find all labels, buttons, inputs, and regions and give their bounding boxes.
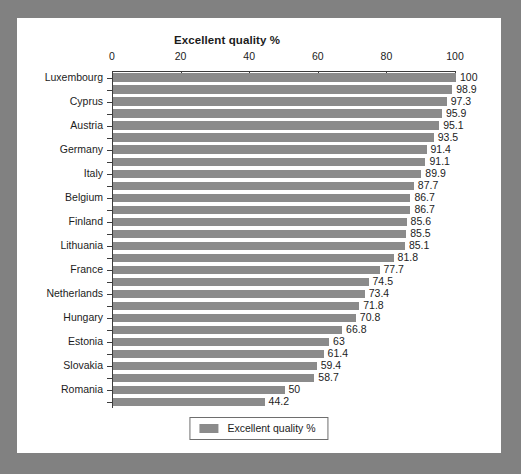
bar[interactable] <box>113 290 365 299</box>
category-label: Italy <box>84 167 103 180</box>
bar-row[interactable]: Slovakia59.4 <box>17 360 501 372</box>
bar-row[interactable]: Cyprus97.3 <box>17 96 501 108</box>
bar-row[interactable]: Hungary70.8 <box>17 312 501 324</box>
y-tick <box>107 258 112 259</box>
bar[interactable] <box>113 194 410 203</box>
x-tick-label-20: 20 <box>175 50 187 62</box>
bar[interactable] <box>113 109 442 118</box>
bar[interactable] <box>113 121 439 130</box>
y-tick <box>107 90 112 91</box>
y-tick <box>107 378 112 379</box>
y-tick <box>107 186 112 187</box>
bar[interactable] <box>113 314 356 323</box>
category-label: Belgium <box>65 191 103 204</box>
bar-row[interactable]: Netherlands73.4 <box>17 288 501 300</box>
bar[interactable] <box>113 278 369 287</box>
bar[interactable] <box>113 85 452 94</box>
category-label: France <box>70 263 103 276</box>
chart-panel: Excellent quality % 020406080100 Luxembo… <box>17 18 501 453</box>
bar[interactable] <box>113 242 405 251</box>
x-tick-label-60: 60 <box>312 50 324 62</box>
y-tick <box>107 330 112 331</box>
y-tick <box>107 282 112 283</box>
category-label: Germany <box>60 143 103 156</box>
bar-row[interactable]: 44.2 <box>17 396 501 408</box>
bar[interactable] <box>113 97 447 106</box>
y-tick <box>107 402 112 403</box>
category-label: Luxembourg <box>45 71 103 84</box>
bar[interactable] <box>113 145 427 154</box>
y-tick <box>107 366 112 367</box>
bar[interactable] <box>113 350 324 359</box>
bar[interactable] <box>113 158 425 167</box>
bar[interactable] <box>113 398 265 407</box>
y-tick <box>107 246 112 247</box>
chart-title: Excellent quality % <box>17 34 437 46</box>
category-label: Austria <box>70 119 103 132</box>
bar-value-label: 66.8 <box>346 323 366 336</box>
legend-label: Excellent quality % <box>227 422 315 434</box>
bar-value-label: 50 <box>289 383 301 396</box>
y-tick <box>107 210 112 211</box>
y-tick <box>107 342 112 343</box>
bar[interactable] <box>113 73 456 82</box>
bar[interactable] <box>113 206 410 215</box>
legend-swatch-icon <box>199 424 218 433</box>
x-tick-label-100: 100 <box>446 50 464 62</box>
bar[interactable] <box>113 230 406 239</box>
bar[interactable] <box>113 374 314 383</box>
y-tick <box>107 390 112 391</box>
category-label: Cyprus <box>70 95 103 108</box>
bar[interactable] <box>113 326 342 335</box>
category-label: Lithuania <box>60 239 103 252</box>
y-tick <box>107 270 112 271</box>
plot-area: Excellent quality % 020406080100 Luxembo… <box>17 18 501 453</box>
bar-row[interactable]: France77.7 <box>17 264 501 276</box>
x-tick-label-80: 80 <box>381 50 393 62</box>
category-label: Hungary <box>63 311 103 324</box>
y-tick <box>107 126 112 127</box>
bar-rows: Luxembourg10098.9Cyprus97.395.9Austria95… <box>17 72 501 408</box>
bar-value-label: 58.7 <box>318 371 338 384</box>
bar[interactable] <box>113 302 359 311</box>
category-label: Romania <box>61 383 103 396</box>
y-tick <box>107 222 112 223</box>
y-tick <box>107 78 112 79</box>
bar[interactable] <box>113 182 414 191</box>
bar[interactable] <box>113 338 329 347</box>
bar-value-label: 44.2 <box>269 395 289 408</box>
category-label: Slovakia <box>63 359 103 372</box>
bar-row[interactable]: Austria95.1 <box>17 120 501 132</box>
bar-row[interactable]: Luxembourg100 <box>17 72 501 84</box>
category-label: Finland <box>69 215 103 228</box>
y-tick <box>107 162 112 163</box>
y-tick <box>107 198 112 199</box>
bar[interactable] <box>113 254 394 263</box>
x-tick-label-40: 40 <box>243 50 255 62</box>
y-tick <box>107 102 112 103</box>
chart-legend: Excellent quality % <box>189 417 328 440</box>
bar[interactable] <box>113 218 407 227</box>
bar-row[interactable]: Germany91.4 <box>17 144 501 156</box>
category-label: Estonia <box>68 335 103 348</box>
bar-row[interactable]: Estonia63 <box>17 336 501 348</box>
bar-row[interactable]: Romania50 <box>17 384 501 396</box>
bar[interactable] <box>113 133 434 142</box>
y-tick <box>107 294 112 295</box>
y-tick <box>107 234 112 235</box>
y-tick <box>107 114 112 115</box>
bar[interactable] <box>113 386 285 395</box>
bar[interactable] <box>113 362 317 371</box>
bar-row[interactable]: Lithuania85.1 <box>17 240 501 252</box>
bar[interactable] <box>113 266 380 275</box>
y-tick <box>107 318 112 319</box>
y-tick <box>107 138 112 139</box>
bar[interactable] <box>113 170 421 179</box>
y-tick <box>107 306 112 307</box>
y-tick <box>107 174 112 175</box>
y-tick <box>107 150 112 151</box>
y-tick <box>107 354 112 355</box>
chart-screenshot: Excellent quality % 020406080100 Luxembo… <box>0 0 521 474</box>
x-tick-label-0: 0 <box>109 50 115 62</box>
category-label: Netherlands <box>46 287 103 300</box>
